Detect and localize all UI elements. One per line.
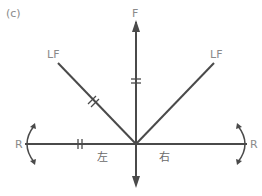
direction-diagram: (c) F LF LF R R 左 右	[0, 0, 262, 196]
forward-arrowhead-icon	[132, 20, 140, 32]
label-left-forward: LF	[47, 48, 59, 61]
right-forward-line	[136, 63, 214, 144]
backward-arrowhead-icon	[132, 176, 140, 188]
label-rotate-right: R	[250, 138, 258, 151]
label-right: 右	[159, 150, 170, 164]
label-right-forward: LF	[210, 48, 222, 61]
label-forward: F	[132, 7, 138, 20]
label-rotate-left: R	[15, 138, 23, 151]
left-forward-line	[58, 63, 136, 144]
panel-label: (c)	[6, 7, 21, 20]
label-left: 左	[97, 151, 108, 164]
